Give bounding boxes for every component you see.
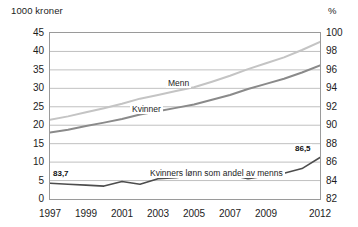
y-axis-right: 828486889092949698100 xyxy=(326,0,352,227)
x-tick-label: 2007 xyxy=(210,209,250,219)
y-tick-label-right: 92 xyxy=(326,102,352,112)
y-axis-left: 051015202530354045 xyxy=(18,0,44,227)
y-tick-label-right: 86 xyxy=(326,157,352,167)
series-line xyxy=(50,65,320,132)
series-label: Kvinners lønn som andel av menns xyxy=(148,168,285,178)
y-tick-label-right: 100 xyxy=(326,28,352,38)
y-tick-label-right: 88 xyxy=(326,139,352,149)
y-tick-label-left: 25 xyxy=(18,102,44,112)
x-tick-label: 2003 xyxy=(138,209,178,219)
x-axis: 19971999200120032005200720092012 xyxy=(0,203,358,223)
data-value-label: 86,5 xyxy=(294,144,312,153)
x-tick-label: 2005 xyxy=(174,209,214,219)
y-tick-label-right: 96 xyxy=(326,65,352,75)
y-tick-label-right: 90 xyxy=(326,120,352,130)
y-tick-label-right: 94 xyxy=(326,83,352,93)
y-tick-label-right: 84 xyxy=(326,176,352,186)
y-tick-label-left: 40 xyxy=(18,46,44,56)
y-tick-label-left: 5 xyxy=(18,176,44,186)
y-tick-label-left: 30 xyxy=(18,83,44,93)
data-value-label: 83,7 xyxy=(52,169,70,178)
y-tick-label-left: 15 xyxy=(18,139,44,149)
y-tick-label-left: 45 xyxy=(18,28,44,38)
x-tick-label: 2012 xyxy=(300,209,340,219)
x-tick-label: 1999 xyxy=(66,209,106,219)
y-tick-label-right: 98 xyxy=(326,46,352,56)
x-tick-label: 2001 xyxy=(102,209,142,219)
y-tick-label-left: 20 xyxy=(18,120,44,130)
y-tick-label-left: 10 xyxy=(18,157,44,167)
y-tick-label-left: 35 xyxy=(18,65,44,75)
x-tick-label: 2009 xyxy=(246,209,286,219)
series-label: Menn xyxy=(166,78,191,88)
plot-area: MennKvinnerKvinners lønn som andel av me… xyxy=(49,32,321,200)
series-label: Kvinner xyxy=(130,104,163,114)
chart-container: 1000 kroner % 051015202530354045 8284868… xyxy=(0,0,358,227)
x-tick-label: 1997 xyxy=(30,209,70,219)
